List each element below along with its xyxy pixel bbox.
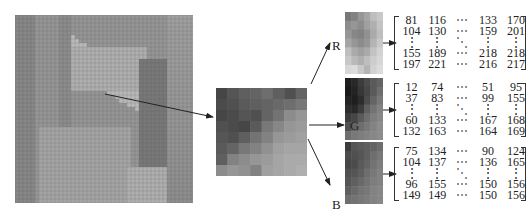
- right-bracket: [521, 147, 526, 201]
- matrix-cell: 132: [399, 126, 424, 137]
- right-bracket: [521, 16, 526, 70]
- matrix-row: 132163⋯164169: [399, 126, 530, 137]
- matrix-cell: ⋯: [451, 126, 475, 137]
- matrix-cell: 216: [474, 59, 502, 70]
- matrix-row: 197221⋯216217: [399, 59, 530, 70]
- matrix-cell: ⋯: [451, 59, 475, 70]
- matrix-cell: 164: [474, 126, 502, 137]
- green-channel-matrix: 1274⋯51953783⋯99155⋮⋮⋱⋮⋮60133⋯1671681321…: [390, 82, 530, 138]
- matrix-table: 75134⋯90124104137⋯136165⋮⋮⋱⋮⋮96155⋯15015…: [399, 146, 530, 201]
- matrix-cell: 163: [424, 126, 451, 137]
- matrix-cell: 197: [399, 59, 424, 70]
- matrix-cell: 221: [424, 59, 451, 70]
- matrix-table: 1274⋯51953783⋯99155⋮⋮⋱⋮⋮60133⋯1671681321…: [399, 82, 530, 137]
- red-channel-matrix: 81116⋯133170104130⋯159201⋮⋮⋱⋮⋮155189⋯218…: [390, 15, 530, 71]
- block-to-b-arrow: [308, 139, 330, 185]
- blue-channel-matrix: 75134⋯90124104137⋯136165⋮⋮⋱⋮⋮96155⋯15015…: [390, 146, 530, 202]
- matrix-cell: ⋯: [451, 190, 475, 201]
- matrix-cell: 149: [424, 190, 451, 201]
- matrix-row: 149149⋯150156: [399, 190, 530, 201]
- right-bracket: [521, 83, 526, 137]
- matrix-table: 81116⋯133170104130⋯159201⋮⋮⋱⋮⋮155189⋯218…: [399, 15, 530, 70]
- block-to-r-arrow: [311, 43, 330, 84]
- matrix-cell: 150: [474, 190, 502, 201]
- matrix-cell: 149: [399, 190, 424, 201]
- source-to-block-arrow: [105, 94, 213, 117]
